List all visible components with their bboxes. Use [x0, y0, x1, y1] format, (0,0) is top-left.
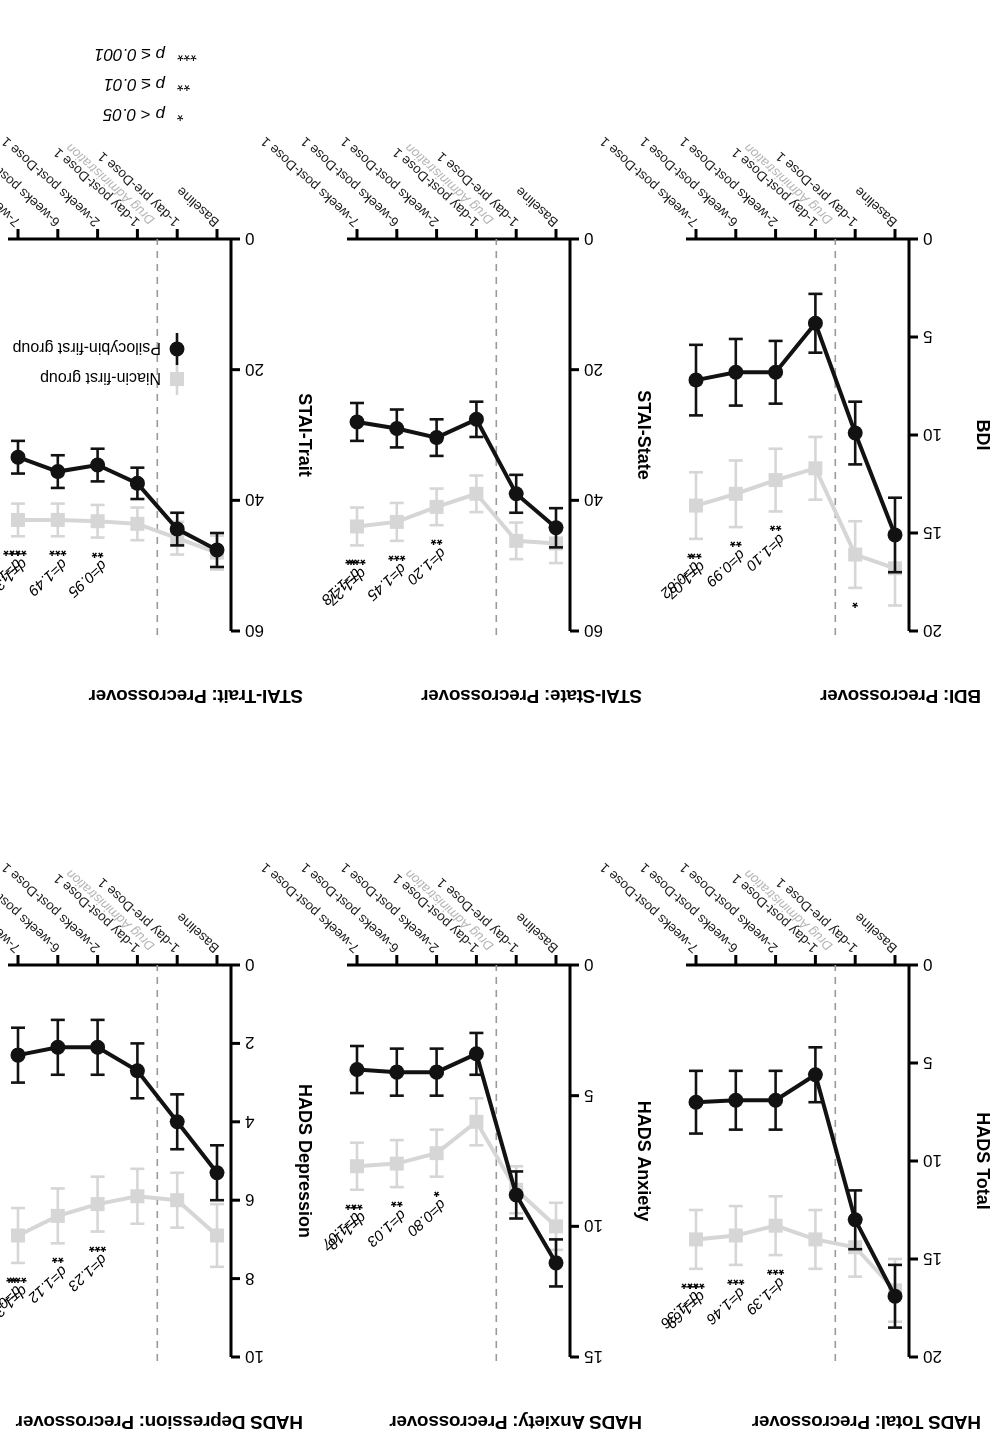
y-tick-label: 20	[584, 360, 603, 379]
significance-stars: ***	[49, 543, 67, 560]
y-tick-label: 15	[584, 1347, 603, 1366]
significance-legend-text: p < 0.05	[103, 105, 166, 124]
series-niacin-first	[350, 476, 563, 564]
series-niacin-first	[11, 1169, 224, 1267]
x-tick-label: Baseline	[173, 910, 222, 956]
significance-stars: ***	[388, 548, 406, 565]
plot-area: 05101520Baseline1-day pre-Dose 11-day po…	[670, 0, 1005, 709]
chart-panel-hads-depression: HADS Depression: Precrossover0246810Base…	[0, 713, 329, 1439]
y-tick-label: 20	[923, 621, 942, 640]
y-tick-label: 0	[245, 229, 254, 248]
chart-panel-stai-state: STAI-State: Precrossover0204060Baseline1…	[329, 0, 668, 713]
effect-size-label: d=1.23	[65, 1251, 111, 1295]
significance-stars: ***	[3, 543, 21, 560]
y-axis-title: STAI-State	[634, 390, 654, 480]
significance-stars: *	[852, 595, 858, 612]
effect-size-label: d=0.95	[65, 557, 111, 601]
chart-panel-hads-anxiety: HADS Anxiety: Precrossover051015Baseline…	[329, 713, 668, 1439]
y-tick-label: 4	[245, 1112, 254, 1131]
series-psilocybin-first	[350, 1033, 564, 1286]
effect-size-label: d=1.10	[743, 531, 789, 575]
significance-legend-stars: ***	[177, 45, 197, 64]
panel-title: BDI: Precrossover	[820, 685, 981, 707]
series-legend: Niacin-first groupPsilocybin-first group	[12, 333, 184, 395]
y-tick-label: 20	[245, 360, 264, 379]
y-tick-label: 40	[245, 490, 264, 509]
series-psilocybin-first	[11, 1020, 225, 1200]
y-axis-title: STAI-Trait	[295, 393, 315, 477]
figure-root: HADS Total: Precrossover05101520Baseline…	[0, 0, 1007, 1439]
plot-area: 0204060Baseline1-day pre-Dose 11-day pos…	[331, 0, 666, 709]
y-tick-label: 40	[584, 490, 603, 509]
effect-size-label: d=1.49	[25, 556, 71, 600]
y-tick-label: 10	[923, 425, 942, 444]
legend-label-niacin: Niacin-first group	[40, 370, 161, 387]
significance-legend: *p < 0.05**p ≤ 0.01***p ≤ 0.001	[94, 45, 197, 124]
panel-title: HADS Anxiety: Precrossover	[390, 1411, 642, 1433]
y-tick-label: 15	[923, 1249, 942, 1268]
x-tick-label: Baseline	[512, 184, 561, 230]
panel-grid: HADS Total: Precrossover05101520Baseline…	[0, 0, 1007, 1439]
significance-stars: ***	[89, 1239, 107, 1256]
panel-title: STAI-Trait: Precrossover	[89, 685, 303, 707]
effect-size-label: d=1.45	[364, 561, 410, 605]
y-axis-title: BDI	[973, 420, 993, 451]
plot-area: 0246810Baseline1-day pre-Dose 11-day pos…	[0, 715, 327, 1435]
y-tick-label: 20	[923, 1347, 942, 1366]
y-tick-label: 5	[923, 1053, 932, 1072]
panel-title: HADS Total: Precrossover	[752, 1411, 981, 1433]
y-tick-label: 60	[245, 621, 264, 640]
y-tick-label: 0	[245, 955, 254, 974]
series-psilocybin-first	[689, 294, 903, 572]
effect-size-label: d=1.20	[404, 545, 450, 589]
y-tick-label: 6	[245, 1190, 254, 1209]
plot-area: 05101520Baseline1-day pre-Dose 11-day po…	[670, 715, 1005, 1435]
y-tick-label: 8	[245, 1269, 254, 1288]
effect-size-label: d=1.03	[364, 1207, 410, 1251]
chart-panel-hads-total: HADS Total: Precrossover05101520Baseline…	[668, 713, 1007, 1439]
y-tick-label: 5	[923, 327, 932, 346]
effect-size-label: d=0.99	[703, 547, 749, 591]
significance-stars: ***	[727, 1272, 745, 1289]
chart-panel-stai-trait: STAI-Trait: Precrossover0204060Baseline1…	[0, 0, 329, 713]
y-tick-label: 0	[584, 955, 593, 974]
panel-title: STAI-State: Precrossover	[421, 685, 642, 707]
y-tick-label: 60	[584, 621, 603, 640]
effect-size-label: d=1.46	[703, 1285, 749, 1329]
significance-legend-stars: **	[177, 75, 191, 94]
significance-legend-text: p ≤ 0.01	[104, 75, 166, 94]
panel-title: HADS Depression: Precrossover	[16, 1411, 303, 1433]
x-tick-label: Baseline	[512, 910, 561, 956]
x-tick-label: Baseline	[851, 910, 900, 956]
chart-panel-bdi: BDI: Precrossover05101520Baseline1-day p…	[668, 0, 1007, 713]
y-tick-label: 10	[245, 1347, 264, 1366]
significance-legend-text: p ≤ 0.001	[94, 45, 166, 64]
y-tick-label: 5	[584, 1086, 593, 1105]
effect-size-label: d=1.12	[25, 1263, 71, 1307]
significance-stars: ***	[767, 1262, 785, 1279]
plot-area: 051015Baseline1-day pre-Dose 11-day post…	[331, 715, 666, 1435]
legend-label-psilocybin: Psilocybin-first group	[12, 340, 161, 357]
y-tick-label: 2	[245, 1033, 254, 1052]
y-tick-label: 10	[923, 1151, 942, 1170]
y-tick-label: 15	[923, 523, 942, 542]
y-axis-title: HADS Anxiety	[634, 1101, 654, 1221]
y-tick-label: 0	[923, 955, 932, 974]
y-axis-title: HADS Depression	[295, 1084, 315, 1238]
y-axis-title: HADS Total	[973, 1112, 993, 1210]
x-tick-label: Baseline	[851, 184, 900, 230]
y-tick-label: 10	[584, 1216, 603, 1235]
plot-area: 0204060Baseline1-day pre-Dose 11-day pos…	[0, 0, 327, 709]
y-tick-label: 0	[923, 229, 932, 248]
series-psilocybin-first	[689, 1047, 903, 1327]
significance-legend-stars: *	[177, 105, 184, 124]
x-tick-label: Baseline	[173, 184, 222, 230]
y-tick-label: 0	[584, 229, 593, 248]
significance-stars: ***	[681, 1276, 699, 1293]
effect-size-label: d=0.80	[404, 1196, 450, 1240]
series-psilocybin-first	[11, 441, 225, 567]
